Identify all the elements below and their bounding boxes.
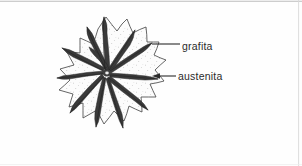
rosette-illustration xyxy=(0,0,302,166)
figure-panel: grafita austenita xyxy=(0,0,302,166)
label-grafita: grafita xyxy=(182,41,213,52)
label-austenita: austenita xyxy=(178,71,222,82)
